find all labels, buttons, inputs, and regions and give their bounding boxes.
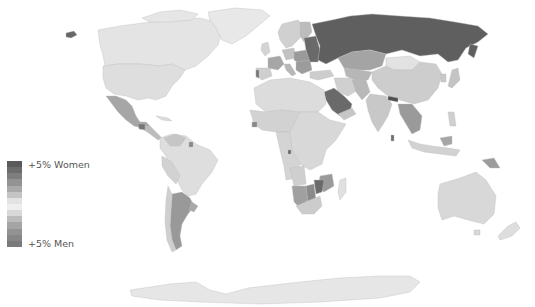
country-mexico[interactable]: [106, 96, 150, 128]
country-russia[interactable]: [312, 14, 488, 64]
country-france[interactable]: [268, 56, 284, 70]
country-usa[interactable]: [103, 64, 185, 100]
antarctica[interactable]: [130, 276, 420, 304]
country-zimbabwe[interactable]: [314, 180, 324, 194]
country-sierra-leone[interactable]: [252, 122, 257, 127]
country-turkey[interactable]: [310, 70, 334, 80]
country-canada[interactable]: [98, 18, 222, 70]
legend-swatch: [7, 241, 22, 247]
country-russia-kamchatka[interactable]: [468, 44, 478, 58]
country-guatemala[interactable]: [138, 124, 145, 130]
country-portugal[interactable]: [256, 70, 259, 78]
country-borneo[interactable]: [440, 136, 452, 146]
legend-label-women: +5% Women: [28, 159, 90, 170]
country-madagascar[interactable]: [338, 178, 346, 200]
country-philippines[interactable]: [448, 112, 456, 126]
world-choropleth-map: [0, 0, 535, 307]
country-uk[interactable]: [261, 42, 270, 56]
legend-label-men: +5% Men: [28, 238, 74, 249]
country-cuba[interactable]: [156, 116, 172, 121]
country-papua-new-guinea[interactable]: [482, 158, 500, 168]
country-north-africa[interactable]: [254, 78, 326, 112]
country-angola[interactable]: [290, 166, 306, 186]
country-balkans[interactable]: [296, 60, 312, 74]
legend: +5% Women +5% Men: [7, 161, 97, 251]
country-alaska-island[interactable]: [66, 31, 77, 38]
country-suriname[interactable]: [189, 142, 193, 147]
country-canada-arctic[interactable]: [142, 10, 198, 22]
country-gabon[interactable]: [288, 150, 291, 154]
country-japan[interactable]: [448, 68, 460, 88]
country-australia[interactable]: [438, 172, 496, 224]
legend-color-scale: [7, 161, 22, 247]
country-new-zealand[interactable]: [498, 222, 520, 240]
country-italy[interactable]: [284, 64, 296, 76]
country-myanmar-thailand[interactable]: [398, 104, 422, 134]
country-korea[interactable]: [440, 74, 446, 82]
country-tasmania[interactable]: [474, 230, 480, 235]
country-sri-lanka[interactable]: [391, 135, 394, 141]
country-argentina[interactable]: [170, 192, 194, 250]
